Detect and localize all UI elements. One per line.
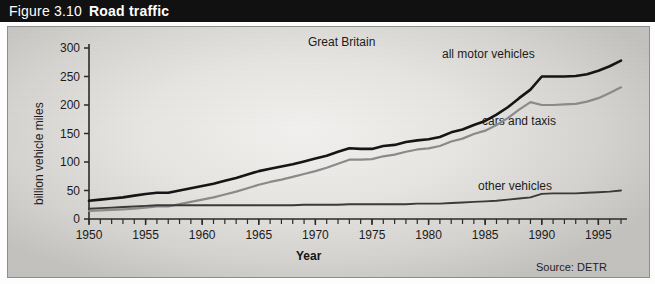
y-tick-label: 0 xyxy=(73,212,80,226)
figure-title-bar: Figure 3.10Road traffic xyxy=(0,0,655,22)
y-tick-label: 250 xyxy=(60,70,80,84)
y-tick-labels: 050100150200250300 xyxy=(60,41,80,226)
figure-title: Road traffic xyxy=(89,3,169,19)
x-tick-label: 1970 xyxy=(302,228,329,242)
screenshot-root: Figure 3.10Road traffic Great Britain bi… xyxy=(0,0,655,284)
y-tick-label: 50 xyxy=(67,184,81,198)
x-tick-label: 1955 xyxy=(132,228,159,242)
x-tick-label: 1995 xyxy=(585,228,612,242)
y-tick-label: 100 xyxy=(60,155,80,169)
chart-axes xyxy=(84,44,627,225)
x-tick-label: 1980 xyxy=(415,228,442,242)
x-tick-label: 1990 xyxy=(528,228,555,242)
y-tick-label: 200 xyxy=(60,98,80,112)
x-tick-label: 1985 xyxy=(472,228,499,242)
x-tick-labels: 1950195519601965197019751980198519901995 xyxy=(76,228,612,242)
x-tick-label: 1950 xyxy=(76,228,103,242)
chart-series-lines xyxy=(89,61,621,211)
x-tick-label: 1975 xyxy=(359,228,386,242)
figure-number: Figure 3.10 xyxy=(9,3,82,19)
y-tick-label: 150 xyxy=(60,127,80,141)
x-tick-label: 1960 xyxy=(189,228,216,242)
figure-panel: Great Britain billion vehicle miles Year… xyxy=(7,26,650,278)
chart-plot-area: 050100150200250300 195019551960196519701… xyxy=(8,27,649,277)
figure-title-group: Figure 3.10Road traffic xyxy=(9,2,169,20)
y-tick-label: 300 xyxy=(60,41,80,55)
x-tick-label: 1965 xyxy=(245,228,272,242)
series-line-all-motor-vehicles xyxy=(89,61,621,201)
